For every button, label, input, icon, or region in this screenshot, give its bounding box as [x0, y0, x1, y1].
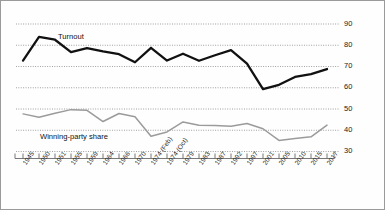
y-tick-label-70: 70	[344, 62, 352, 70]
series-label-winning-party-share: Winning-party share	[40, 132, 108, 141]
data-series	[23, 37, 327, 140]
y-tick-label-80: 80	[344, 41, 352, 49]
y-tick-label-60: 60	[344, 83, 352, 91]
series-line-turnout	[23, 37, 327, 89]
y-tick-label-30: 30	[344, 147, 352, 155]
y-tick-label-50: 50	[344, 105, 352, 113]
series-label-turnout: Turnout	[58, 32, 84, 41]
chart-frame: 30405060708090 1945195019511955195919641…	[0, 0, 385, 210]
y-tick-label-90: 90	[344, 20, 352, 28]
y-tick-label-40: 40	[344, 126, 352, 134]
